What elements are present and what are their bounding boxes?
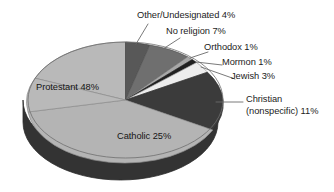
pie-chart-figure: Other/Undesignated 4% No religion 7% Ort… (0, 0, 334, 192)
leader-line-mormon (196, 62, 222, 65)
pie-label-catholic: Catholic 25% (117, 131, 171, 142)
pie-label-mormon: Mormon 1% (222, 57, 272, 68)
pie-label-christian-line2: (nonspecific) 11% (246, 106, 318, 116)
pie-label-orthodox: Orthodox 1% (204, 42, 258, 53)
leader-line-no-religion (163, 38, 180, 49)
leader-line-other-undesignated (136, 24, 148, 44)
pie-top-face (27, 42, 224, 163)
pie-label-jewish: Jewish 3% (231, 71, 275, 82)
pie-label-christian-nonspecific: Christian (nonspecific) 11% (246, 94, 328, 117)
pie-label-no-religion: No religion 7% (166, 26, 226, 37)
pie-label-protestant: Protestant 48% (36, 82, 99, 93)
pie-label-christian-line1: Christian (246, 94, 282, 104)
pie-label-other-undesignated: Other/Undesignated 4% (137, 10, 235, 21)
